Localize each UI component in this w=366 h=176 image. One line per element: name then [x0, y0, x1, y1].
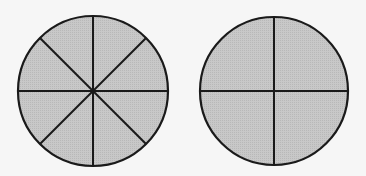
circle-divided-into-eighths — [18, 16, 168, 166]
diagram-canvas — [0, 0, 366, 176]
fraction-circles-diagram — [0, 0, 366, 176]
circle-divided-into-quarters — [200, 17, 348, 165]
